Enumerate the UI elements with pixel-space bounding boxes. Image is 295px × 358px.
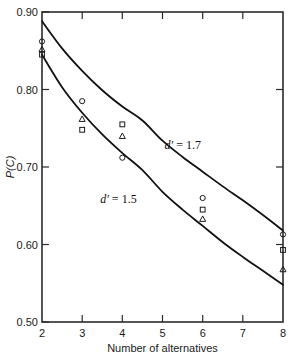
x-tick-label-3: 3 bbox=[79, 327, 85, 339]
data-point-triangle bbox=[79, 116, 85, 121]
d-prime-1.5-label: d′ = 1.5 bbox=[100, 192, 136, 206]
data-point-square bbox=[120, 122, 125, 127]
data-point-triangle bbox=[119, 133, 125, 138]
y-tick-labels: 0.90 0.80 0.70 0.60 0.50 bbox=[17, 6, 38, 328]
x-tick-labels: 2 3 4 5 6 7 8 bbox=[39, 327, 286, 339]
x-tick-label-8: 8 bbox=[280, 327, 286, 339]
curve-layer bbox=[42, 21, 283, 285]
chart-figure: 0.90 0.80 0.70 0.60 0.50 2 3 4 5 6 7 8 N… bbox=[0, 0, 295, 358]
data-markers bbox=[39, 39, 286, 272]
y-axis-title: P(C) bbox=[4, 155, 16, 178]
data-point-circle bbox=[80, 99, 85, 104]
data-point-square bbox=[200, 207, 205, 212]
y-axis-ticks bbox=[42, 12, 283, 322]
chart-svg: 0.90 0.80 0.70 0.60 0.50 2 3 4 5 6 7 8 N… bbox=[0, 0, 295, 358]
y-tick-label-0.70: 0.70 bbox=[17, 161, 38, 173]
data-point-circle bbox=[200, 195, 205, 200]
d-prime-1.7-label: d′ = 1.7 bbox=[165, 138, 201, 152]
y-tick-label-0.60: 0.60 bbox=[17, 239, 38, 251]
x-axis-title: Number of alternatives bbox=[107, 342, 218, 354]
plot-frame bbox=[42, 12, 283, 322]
data-point-square bbox=[80, 127, 85, 132]
y-tick-label-0.80: 0.80 bbox=[17, 84, 38, 96]
x-tick-label-7: 7 bbox=[240, 327, 246, 339]
y-tick-label-0.90: 0.90 bbox=[17, 6, 38, 18]
x-tick-label-4: 4 bbox=[119, 327, 125, 339]
x-axis-ticks bbox=[82, 12, 243, 322]
x-tick-label-6: 6 bbox=[200, 327, 206, 339]
curve-d-prime-1.7 bbox=[42, 21, 283, 230]
y-tick-label-0.50: 0.50 bbox=[17, 316, 38, 328]
x-tick-label-5: 5 bbox=[159, 327, 165, 339]
x-tick-label-2: 2 bbox=[39, 327, 45, 339]
curve-d-prime-1.5 bbox=[42, 55, 283, 285]
data-point-triangle bbox=[200, 216, 206, 221]
data-point-circle bbox=[120, 155, 125, 160]
